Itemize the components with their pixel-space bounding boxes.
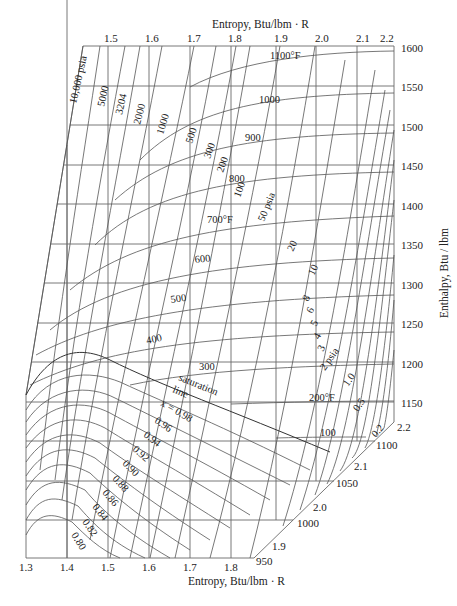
isotherm-label: 900 (245, 132, 261, 143)
right-tick: 1600 (401, 42, 424, 54)
isobar-label: 8 (300, 293, 312, 303)
bottom-axis-title: Entropy, Btu/lbm · R (188, 575, 285, 588)
isobar-label: 1.0 (341, 371, 358, 388)
isobar-label: 5 (308, 318, 320, 328)
isobar-label: 50 psia (256, 190, 278, 222)
bottom-tick: 1.5 (101, 561, 115, 573)
isotherm-label: 800 (229, 173, 245, 184)
right-tick: 1200 (401, 358, 424, 370)
right-tick: 1250 (401, 318, 424, 330)
saturation-region (26, 352, 330, 558)
quality-label: 0.86 (100, 487, 120, 508)
top-tick: 1.9 (274, 32, 288, 44)
isobar-label: 20 (285, 239, 299, 253)
right-tick: 1300 (401, 279, 424, 291)
isotherm-label: 200°F (309, 392, 335, 403)
bottom-tick-labels: 1.3 1.4 1.5 1.6 1.7 1.8 (19, 561, 238, 573)
top-tick-labels: 1.5 1.6 1.7 1.8 1.9 2.0 2.1 2.2 (104, 32, 394, 44)
isobar-label: 500 (183, 126, 198, 144)
right-axis-title: Enthalpy, Btu / lbm (438, 228, 451, 318)
diag-h-tick: 1050 (336, 477, 359, 489)
diag-h-tick: 1100 (376, 439, 398, 451)
isobar-label: 4 (311, 330, 324, 340)
diagonal-tick-labels: 950 1.9 1000 2.0 1050 2.1 1100 2.2 (256, 421, 411, 567)
isobar-labels: 10,000 psia 5000 3204 2000 1000 500 300 … (67, 54, 386, 439)
quality-label: 0.92 (131, 443, 152, 463)
isotherm-label: 300 (199, 361, 215, 372)
quality-label: 0.96 (153, 415, 174, 435)
right-tick-labels: 1600 1550 1500 1450 1400 1350 1300 1250 … (401, 42, 424, 409)
right-tick: 1450 (401, 160, 424, 172)
diag-s-tick: 2.2 (397, 421, 411, 433)
top-tick: 1.5 (104, 32, 118, 44)
right-tick: 1150 (401, 397, 423, 409)
top-tick: 2.2 (380, 32, 394, 44)
isotherm-label: 400 (145, 332, 163, 346)
isotherm-label: 1100°F (270, 50, 301, 61)
bottom-tick: 1.6 (142, 561, 156, 573)
saturation-label-2: line (171, 384, 190, 400)
top-tick: 1.8 (228, 32, 242, 44)
right-tick: 1500 (401, 121, 424, 133)
diag-h-tick: 950 (256, 555, 273, 567)
isobar-label: 6 (304, 305, 316, 315)
entropy-grid (67, 0, 357, 558)
bottom-tick: 1.4 (60, 561, 74, 573)
mollier-chart: Entropy, Btu/lbm · R Entropy, Btu/lbm · … (0, 0, 457, 606)
saturation-label: saturation line (171, 372, 220, 400)
top-tick: 1.7 (187, 32, 201, 44)
diag-s-tick: 2.0 (313, 501, 327, 513)
right-tick: 1350 (401, 239, 424, 251)
isobar-label: 0.5 (351, 396, 368, 413)
right-tick: 1400 (401, 200, 424, 212)
top-tick: 2.1 (356, 32, 370, 44)
diag-s-tick: 2.1 (354, 460, 368, 472)
isotherm-label: 600 (194, 252, 211, 265)
diag-s-tick: 1.9 (272, 540, 286, 552)
isobar-label: 10,000 psia (67, 54, 89, 104)
bottom-tick: 1.3 (19, 561, 33, 573)
isobar-label: 0.2 (369, 422, 386, 439)
isotherms (30, 51, 394, 438)
diag-h-tick: 1000 (297, 517, 320, 529)
isotherm-label: 700°F (207, 214, 233, 225)
quality-label: 0.88 (111, 473, 131, 494)
quality-labels: x = 0.98 0.96 0.94 0.92 0.90 0.88 0.86 0… (69, 397, 194, 551)
top-tick: 1.6 (145, 32, 159, 44)
isobar-label: 10 (306, 263, 320, 277)
isobar-label: 1000 (154, 112, 171, 135)
top-tick: 2.0 (315, 32, 329, 44)
quality-label: 0.94 (142, 429, 164, 449)
isobar-label: 3 (315, 343, 327, 353)
right-tick: 1550 (401, 81, 424, 93)
isotherm-label: 100 (320, 427, 336, 438)
isobar-label: 2000 (131, 102, 147, 125)
bottom-tick: 1.8 (224, 561, 238, 573)
quality-label: 0.80 (69, 530, 88, 551)
quality-label: 0.90 (121, 458, 142, 479)
top-axis-title: Entropy, Btu/lbm · R (212, 18, 309, 31)
bottom-tick: 1.7 (183, 561, 197, 573)
isotherm-label: 500 (170, 292, 187, 305)
isotherm-label: 1000 (259, 94, 280, 105)
